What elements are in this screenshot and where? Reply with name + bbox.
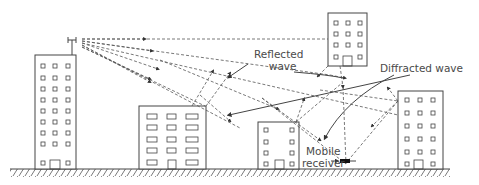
propagation-diagram	[0, 0, 479, 185]
mobile-receiver-label: Mobile receiver	[302, 145, 345, 169]
building-tall-left	[35, 55, 76, 169]
reflected-wave-label: Reflected wave	[254, 48, 303, 72]
mobile-receiver-line1: Mobile	[306, 145, 345, 157]
ground	[10, 169, 450, 177]
building-low-wide	[139, 106, 206, 169]
building-right-tower	[398, 91, 443, 169]
building-small	[258, 122, 299, 169]
diffracted-wave-text: Diffracted wave	[380, 62, 463, 74]
mobile-receiver-line2: receiver	[302, 157, 345, 169]
building-upper-right	[328, 13, 367, 66]
diffracted-wave-label: Diffracted wave	[380, 62, 463, 74]
reflected-wave-line2: wave	[262, 60, 303, 72]
reflected-wave-line1: Reflected	[254, 48, 303, 60]
antenna-icon	[68, 37, 76, 55]
